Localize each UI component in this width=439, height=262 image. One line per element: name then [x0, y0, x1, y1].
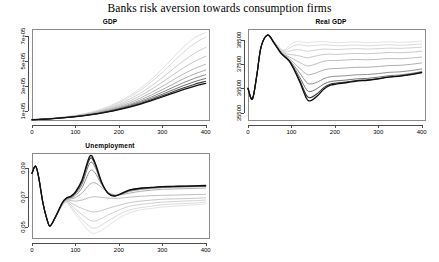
x-tick-mark	[291, 125, 292, 128]
figure-canvas: Banks risk aversion towards consumption …	[0, 0, 439, 262]
y-tick-label: 0.05	[19, 210, 27, 244]
x-tick-label: 100	[276, 129, 306, 135]
x-tick-mark	[32, 243, 33, 246]
series-line	[32, 155, 206, 226]
series-line	[248, 35, 422, 100]
y-axis-line	[244, 40, 245, 113]
x-tick-label: 0	[17, 247, 47, 253]
x-tick-mark	[162, 125, 163, 128]
x-tick-label: 300	[147, 129, 177, 135]
x-tick-mark	[206, 125, 207, 128]
series-line	[32, 64, 206, 120]
x-tick-mark	[162, 243, 163, 246]
x-tick-label: 0	[17, 129, 47, 135]
x-tick-label: 400	[191, 129, 221, 135]
series-line	[32, 166, 206, 226]
series-line	[32, 166, 206, 226]
series-line	[248, 35, 422, 100]
x-tick-label: 200	[104, 247, 134, 253]
x-tick-mark	[119, 125, 120, 128]
x-tick-mark	[75, 243, 76, 246]
series-line	[32, 70, 206, 120]
series-line	[32, 166, 206, 226]
figure-title: Banks risk aversion towards consumption …	[0, 2, 439, 14]
series-line	[32, 166, 206, 226]
series-line	[248, 35, 422, 99]
x-tick-label: 100	[60, 129, 90, 135]
x-tick-mark	[335, 125, 336, 128]
x-tick-label: 200	[104, 129, 134, 135]
x-tick-label: 100	[60, 247, 90, 253]
x-tick-mark	[248, 125, 249, 128]
series-line	[248, 35, 422, 100]
series-line	[32, 166, 206, 233]
series-line	[32, 166, 206, 226]
y-tick-label: 7e+05	[19, 19, 27, 53]
panel-real-gdp: Real GDP 0100200300400355003650037500385…	[221, 16, 439, 144]
panel-unemployment: Unemployment 01002003004000.050.070.09	[0, 140, 218, 262]
y-tick-label: 0.09	[19, 151, 27, 185]
series-line	[32, 75, 206, 120]
y-tick-label: 38500	[235, 23, 243, 57]
x-tick-label: 400	[191, 247, 221, 253]
x-tick-mark	[206, 243, 207, 246]
x-tick-label: 300	[147, 247, 177, 253]
series-line	[32, 158, 206, 226]
x-tick-label: 400	[407, 129, 437, 135]
y-tick-label: 0.07	[19, 180, 27, 214]
x-tick-mark	[75, 125, 76, 128]
x-tick-mark	[119, 243, 120, 246]
x-tick-mark	[378, 125, 379, 128]
series-line	[248, 35, 422, 99]
x-tick-label: 300	[363, 129, 393, 135]
y-axis-line	[28, 168, 29, 226]
panel-gdp: GDP 01002003004001e+053e+055e+057e+05	[0, 16, 218, 144]
x-tick-mark	[422, 125, 423, 128]
y-axis-line	[28, 36, 29, 111]
x-tick-label: 200	[320, 129, 350, 135]
x-tick-mark	[32, 125, 33, 128]
